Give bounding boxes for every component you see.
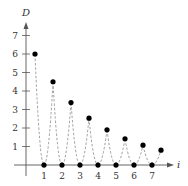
x-tick-label: 6 [131, 171, 137, 181]
peak-point [140, 143, 145, 148]
axes [14, 22, 174, 176]
x-axis-arrow-icon [167, 163, 174, 168]
axis-labels: 12345671234567iD [12, 7, 180, 181]
y-tick-label: 2 [12, 123, 18, 133]
dashed-arc-fall [143, 145, 152, 165]
bouncing-ball-chart: 12345671234567iD [0, 0, 188, 186]
dashed-arc-fall [35, 54, 44, 165]
peak-point [86, 116, 91, 121]
x-tick-label: 4 [95, 171, 101, 181]
bounce-point [131, 162, 136, 167]
dashed-arc-fall [71, 103, 80, 165]
x-tick-label: 2 [59, 171, 65, 181]
y-tick-label: 1 [12, 142, 18, 152]
dashed-arc-fall [125, 139, 134, 165]
x-tick-label: 3 [77, 171, 83, 181]
y-axis-arrow-icon [24, 22, 29, 29]
y-tick-label: 7 [12, 31, 18, 41]
dashed-arc-rise [116, 139, 125, 165]
bounce-point [77, 162, 82, 167]
dashed-arc-rise [62, 103, 71, 165]
y-axis-label: D [21, 7, 30, 18]
x-tick-label: 5 [113, 171, 119, 181]
bounce-point [41, 162, 46, 167]
bounce-point [59, 162, 64, 167]
dashed-arc-rise [98, 130, 107, 165]
peak-point [50, 79, 55, 84]
dashed-arc-fall [107, 130, 116, 165]
peak-point [32, 51, 37, 56]
dashed-arc-rise [134, 145, 143, 165]
y-tick-label: 6 [12, 49, 18, 59]
y-tick-label: 3 [12, 105, 18, 115]
dashed-arc-fall [89, 118, 98, 165]
x-axis-label: i [177, 159, 180, 170]
dashed-arcs [35, 54, 161, 165]
peak-point [158, 148, 163, 153]
x-tick-label: 7 [149, 171, 155, 181]
y-tick-label: 4 [12, 86, 18, 96]
bounce-point [149, 162, 154, 167]
bounce-point [95, 162, 100, 167]
dashed-arc-rise [44, 82, 53, 165]
peak-point [122, 136, 127, 141]
x-tick-label: 1 [41, 171, 47, 181]
peak-point [104, 127, 109, 132]
peak-point [68, 100, 73, 105]
dashed-arc-rise [80, 118, 89, 165]
y-tick-label: 5 [12, 68, 18, 78]
dashed-arc-fall [53, 82, 62, 165]
bounce-point [113, 162, 118, 167]
